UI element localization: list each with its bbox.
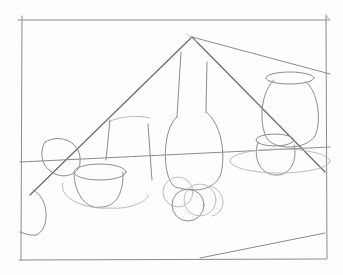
frame-lines [18, 14, 330, 260]
pencil-sketch [0, 0, 343, 275]
small-jar [230, 134, 330, 175]
sketch-canvas: Pencil still-life sketch with constructi… [0, 0, 343, 275]
cup [106, 116, 152, 180]
fruits-left [20, 139, 80, 236]
construction-lines [20, 34, 330, 258]
vase [262, 72, 319, 147]
bottle [165, 52, 223, 190]
bowl [62, 164, 148, 208]
